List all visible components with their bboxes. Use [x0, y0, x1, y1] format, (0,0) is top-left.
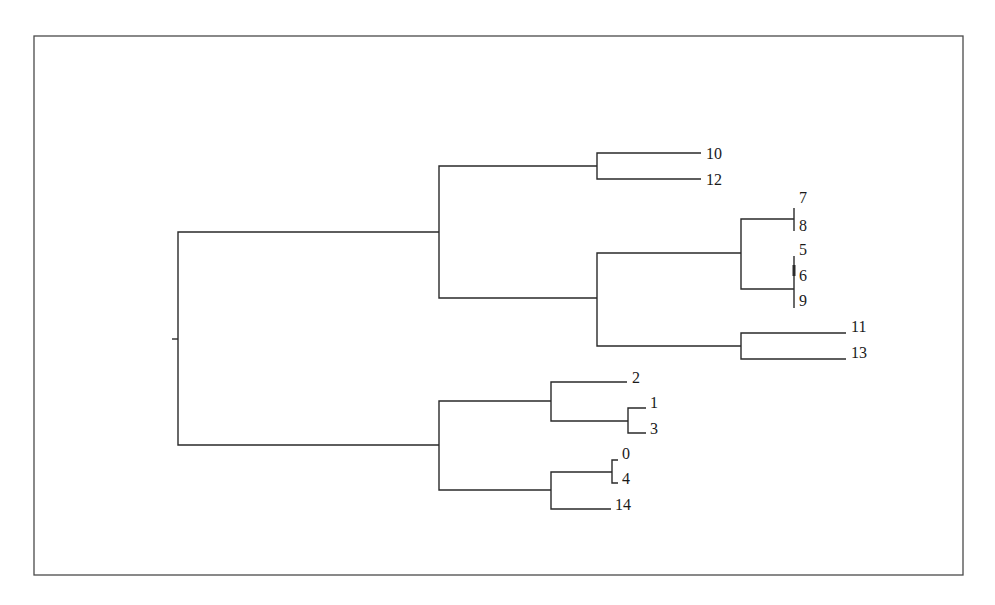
- leaf-label-11: 11: [851, 318, 866, 335]
- node-2-1-3: [551, 382, 628, 421]
- leaf-label-0: 0: [622, 445, 630, 462]
- node-10-12: [597, 153, 701, 179]
- leaf-label-6: 6: [799, 267, 807, 284]
- node-0-4-14: [551, 472, 612, 509]
- node-upper: [439, 166, 597, 298]
- node-1-3: [628, 408, 646, 433]
- leaf-label-12: 12: [706, 171, 722, 188]
- leaf-label-4: 4: [622, 470, 630, 487]
- leaf-label-2: 2: [632, 369, 640, 386]
- dendrogram-branches: [172, 153, 846, 509]
- node-7-8-5-6-9: [741, 219, 794, 289]
- leaf-label-5: 5: [799, 241, 807, 258]
- plot-frame: [34, 36, 963, 575]
- leaf-labels: 10 12 7 8 5 6 9 11 13 2 1 3 0 4 14: [615, 145, 867, 513]
- leaf-label-14: 14: [615, 496, 631, 513]
- dendrogram-figure: 10 12 7 8 5 6 9 11 13 2 1 3 0 4 14: [0, 0, 995, 605]
- node-mid: [597, 253, 741, 346]
- node-0-4: [612, 460, 618, 483]
- leaf-label-3: 3: [650, 420, 658, 437]
- leaf-label-7: 7: [799, 189, 807, 206]
- leaf-label-10: 10: [706, 145, 722, 162]
- node-lower: [439, 401, 551, 490]
- leaf-label-13: 13: [851, 344, 867, 361]
- leaf-label-9: 9: [799, 292, 807, 309]
- node-11-13: [741, 333, 846, 359]
- root-node: [178, 232, 439, 445]
- leaf-label-1: 1: [650, 394, 658, 411]
- leaf-label-8: 8: [799, 217, 807, 234]
